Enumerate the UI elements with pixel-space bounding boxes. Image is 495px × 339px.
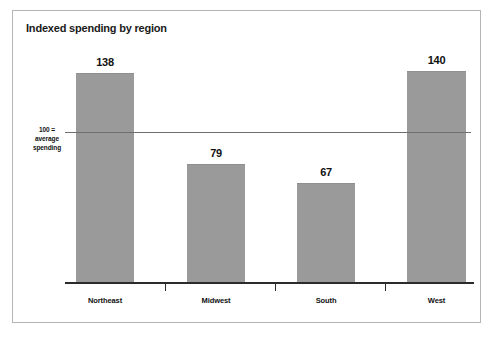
bar-value-west: 140 bbox=[407, 54, 466, 66]
average-reference-label: 100 = average spending bbox=[27, 125, 67, 152]
reference-label-line-1: 100 = bbox=[27, 125, 67, 134]
category-label-northeast: Northeast bbox=[76, 296, 134, 305]
category-label-midwest: Midwest bbox=[187, 296, 245, 305]
bar-value-midwest: 79 bbox=[187, 147, 245, 159]
plot-area: 138 79 67 140 100 = average spending Nor… bbox=[13, 11, 482, 324]
reference-label-line-2: average bbox=[27, 134, 67, 143]
category-label-south: South bbox=[297, 296, 355, 305]
average-reference-line bbox=[65, 132, 471, 133]
axis-tick-1 bbox=[165, 284, 166, 291]
bar-midwest[interactable] bbox=[187, 164, 245, 284]
x-axis-baseline bbox=[65, 282, 474, 284]
category-label-west: West bbox=[407, 296, 466, 305]
axis-tick-2 bbox=[275, 284, 276, 291]
axis-tick-3 bbox=[385, 284, 386, 291]
reference-label-line-3: spending bbox=[27, 143, 67, 152]
bar-value-south: 67 bbox=[297, 166, 355, 178]
bar-northeast[interactable] bbox=[76, 73, 134, 284]
chart-figure: Indexed spending by region 138 79 67 140… bbox=[12, 10, 481, 323]
bar-west[interactable] bbox=[407, 71, 466, 284]
bar-value-northeast: 138 bbox=[76, 56, 134, 68]
bar-south[interactable] bbox=[297, 183, 355, 284]
